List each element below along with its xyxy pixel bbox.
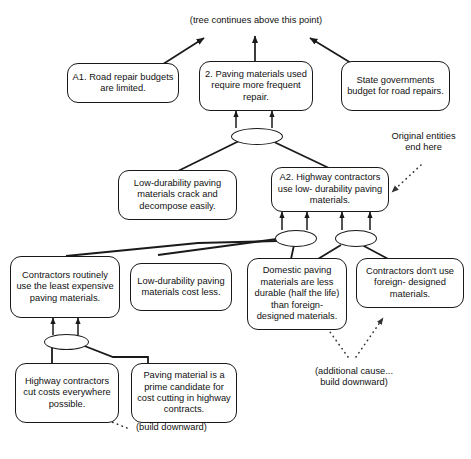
dotted-pointer-original-entities (392, 165, 421, 192)
and-junction-mid-right (335, 230, 377, 247)
node-a1-road-repair[interactable]: A1. Road repair budgets are limited. (67, 63, 179, 103)
and-junction-bottom (44, 334, 89, 350)
note-build-downward: (build downward) (136, 422, 236, 433)
node-low-durability-crack[interactable]: Low-durability paving materials crack an… (118, 170, 237, 220)
node-a2-highway-contractors[interactable]: A2. Highway contractors use low- durabil… (271, 167, 389, 212)
mid-left-junction-leg-to-cost-less (158, 239, 277, 255)
and-junction-mid-left (275, 230, 317, 247)
arrows-into-paving-box (236, 111, 272, 128)
note-tree-continues-above: (tree continues above this point) (141, 15, 371, 26)
node-contractors-least-expensive[interactable]: Contractors routinely use the least expe… (10, 256, 120, 318)
note-original-entities-end-here: Original entities end here (376, 131, 471, 154)
and-junction-top (231, 128, 283, 145)
node-highway-contractors-cut-costs[interactable]: Highway contractors cut costs everywhere… (15, 363, 119, 423)
node-low-durability-cost-less[interactable]: Low-durability paving materials cost les… (130, 263, 232, 311)
node-paving-materials-require-repair[interactable]: 2. Paving materials used require more fr… (199, 61, 313, 111)
node-state-governments-budget[interactable]: State governments budget for road repair… (341, 61, 450, 111)
node-domestic-less-durable[interactable]: Domestic paving materials are less durab… (247, 258, 347, 330)
node-paving-material-prime-candidate[interactable]: Paving material is a prime candidate for… (131, 363, 237, 423)
node-contractors-dont-use-foreign[interactable]: Contractors don't use foreign- designed … (356, 258, 464, 308)
note-additional-cause-build-downward: (additional cause... build downward) (294, 366, 414, 389)
current-reality-tree-diagram: A1. Road repair budgets are limited. 2. … (0, 0, 471, 459)
arrows-into-contractors-box (53, 318, 78, 335)
arrows-into-a2-box (282, 212, 370, 230)
